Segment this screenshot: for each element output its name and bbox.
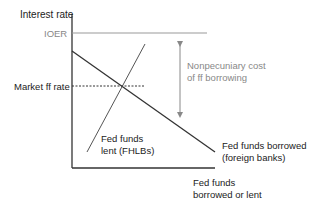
supply-curve-label: Fed funds lent (FHLBs) bbox=[101, 133, 154, 156]
x-axis-label-line-1: Fed funds bbox=[193, 177, 262, 189]
ioer-label: IOER bbox=[44, 28, 67, 40]
supply-label-line-1: Fed funds bbox=[101, 133, 154, 145]
x-axis-label-line-2: borrowed or lent bbox=[193, 189, 262, 201]
demand-curve-label: Fed funds borrowed (foreign banks) bbox=[222, 140, 307, 163]
x-axis-label: Fed funds borrowed or lent bbox=[193, 177, 262, 200]
y-axis-label: Interest rate bbox=[20, 9, 73, 21]
supply-label-line-2: lent (FHLBs) bbox=[101, 145, 154, 157]
demand-label-line-1: Fed funds borrowed bbox=[222, 140, 307, 152]
demand-label-line-2: (foreign banks) bbox=[222, 152, 307, 164]
annotation-line-1: Nonpecuniary cost bbox=[187, 60, 266, 72]
market-rate-label: Market ff rate bbox=[14, 81, 70, 93]
annotation-text: Nonpecuniary cost of ff borrowing bbox=[187, 60, 266, 83]
annotation-line-2: of ff borrowing bbox=[187, 72, 266, 84]
